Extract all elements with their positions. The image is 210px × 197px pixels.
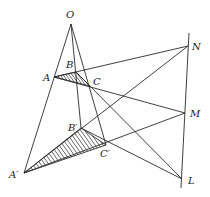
point-label-o: O (66, 9, 74, 20)
point-label-a1: A′ (8, 169, 19, 180)
point-label-b: B (65, 59, 73, 70)
segment-o-a1 (24, 24, 71, 173)
segment-a1-m (24, 113, 185, 173)
point-label-m: M (189, 108, 201, 119)
segment-a-m (54, 77, 185, 113)
point-label-c1: C′ (100, 148, 111, 159)
segment-b1-l (81, 128, 182, 179)
point-labels: OABCA′B′C′NML (8, 9, 202, 186)
point-label-c: C (93, 76, 101, 87)
segment-b-l (76, 72, 182, 179)
desargues-diagram: OABCA′B′C′NML (0, 0, 210, 197)
point-label-n: N (191, 41, 202, 52)
point-label-a: A (42, 72, 50, 83)
point-label-b1: B′ (67, 122, 78, 133)
perspective-axis-line (181, 33, 189, 188)
point-label-l: L (187, 175, 195, 186)
